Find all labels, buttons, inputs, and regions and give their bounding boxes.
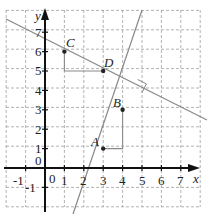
y-tick-label: 4 <box>35 84 42 97</box>
x-tick-label: 1 <box>61 174 68 187</box>
y-tick-label: 2 <box>35 123 42 136</box>
point-c <box>62 49 66 53</box>
x-tick-label: 2 <box>80 174 87 187</box>
y-tick-label: 5 <box>35 64 42 77</box>
point-b <box>120 108 124 112</box>
point-d-label: D <box>104 56 113 69</box>
y-tick-label: 6 <box>35 45 42 58</box>
x-axis-label: x <box>193 172 199 185</box>
point-b-label: B <box>113 96 121 109</box>
x-tick-label: 3 <box>100 174 107 187</box>
x-tick-label: 7 <box>177 174 184 187</box>
x-tick-label: 6 <box>158 174 165 187</box>
y-tick-label: 1 <box>35 142 42 155</box>
x-tick-label: 4 <box>119 174 126 187</box>
origin-label: 0 <box>49 172 56 185</box>
y-tick-label: -1 <box>25 181 36 194</box>
x-tick-label: 5 <box>139 174 146 187</box>
x-tick-label: -1 <box>13 174 24 187</box>
point-a <box>101 146 105 150</box>
y-tick-label: 3 <box>35 103 42 116</box>
y-axis-label: y <box>35 9 41 22</box>
point-a-label: A <box>91 135 99 148</box>
point-c-label: C <box>66 36 75 49</box>
y-tick-label: 7 <box>35 26 42 39</box>
